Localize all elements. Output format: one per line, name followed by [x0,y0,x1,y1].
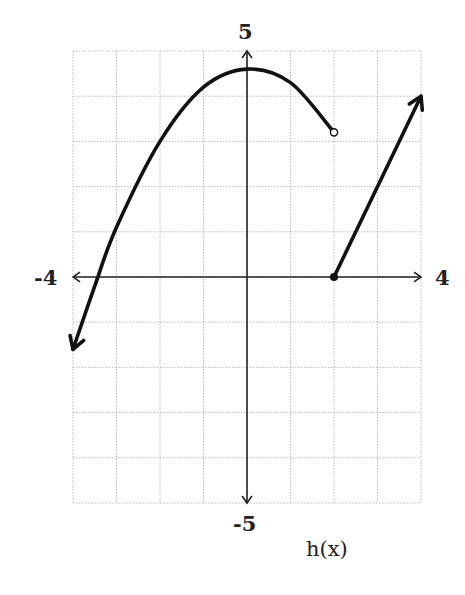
y-max-label: 5 [238,21,253,42]
axes [73,51,421,503]
open-circle-marker [330,129,337,136]
x-min-label: -4 [34,267,57,288]
x-max-label: 4 [435,267,450,288]
function-curves [70,69,422,349]
function-label: h(x) [306,539,348,560]
y-min-label: -5 [233,513,256,534]
graph-canvas [0,0,465,595]
closed-dot-marker [330,273,338,281]
